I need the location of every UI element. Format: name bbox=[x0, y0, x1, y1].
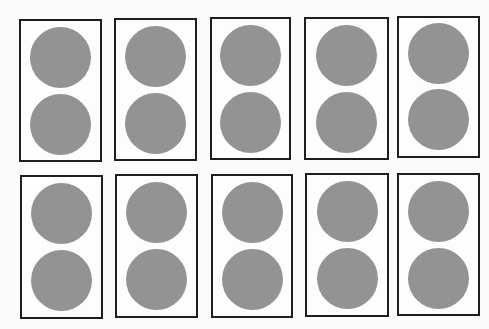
circle-top bbox=[30, 27, 91, 88]
frame-6 bbox=[20, 175, 103, 319]
circle-bottom bbox=[408, 248, 469, 309]
circle-bottom bbox=[31, 250, 92, 311]
frame-9 bbox=[305, 173, 389, 317]
circle-top bbox=[408, 23, 469, 84]
circle-top bbox=[316, 25, 377, 86]
circle-top bbox=[126, 182, 187, 243]
frame-8 bbox=[211, 174, 293, 318]
circle-top bbox=[408, 181, 469, 242]
frame-2 bbox=[114, 18, 197, 161]
frame-10 bbox=[397, 173, 480, 316]
circle-bottom bbox=[316, 92, 377, 153]
circle-bottom bbox=[125, 93, 186, 154]
circle-bottom bbox=[126, 249, 187, 310]
circle-top bbox=[31, 183, 92, 244]
frame-1 bbox=[19, 19, 102, 162]
circle-top bbox=[222, 182, 283, 243]
frame-5 bbox=[397, 16, 480, 158]
circle-bottom bbox=[317, 248, 378, 309]
circle-bottom bbox=[30, 94, 91, 155]
circle-bottom bbox=[222, 249, 283, 310]
circle-top bbox=[317, 181, 378, 242]
circle-top bbox=[125, 26, 186, 87]
frame-3 bbox=[210, 17, 291, 160]
circle-bottom bbox=[220, 92, 281, 153]
frame-7 bbox=[115, 174, 198, 318]
frame-4 bbox=[304, 17, 389, 160]
circle-top bbox=[220, 25, 281, 86]
circle-bottom bbox=[408, 89, 469, 150]
